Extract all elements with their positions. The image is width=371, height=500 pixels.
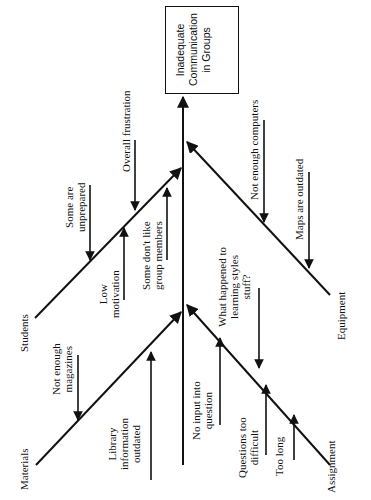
cause-text: magazines [62,343,74,395]
cause-text: motivation [109,270,121,318]
cause-low-motivation: Low motivation [97,270,121,318]
cause-text: Library [106,418,118,470]
effect-line-3: in Groups [200,14,213,86]
cause-maps-outdated: Maps are outdated [293,159,305,240]
cause-text: Not enough computers [248,100,260,200]
cause-text: Overall frustration [120,90,132,172]
cause-too-long: Too long [273,437,285,476]
cause-text: Too long [273,437,285,476]
cause-text: difficult [248,417,260,478]
cause-text: Maps are outdated [293,159,305,240]
effect-line-1: Inadequate [174,14,187,86]
category-materials: Materials [18,448,30,490]
category-students: Students [18,314,30,352]
cause-questions-difficult: Questions too difficult [236,417,260,478]
cause-library-outdated: Library information outdated [106,418,142,470]
cause-overall-frustration: Overall frustration [120,90,132,172]
cause-text: Some don't like [140,221,152,290]
effect-line-2: Communication [187,14,200,86]
cause-dont-like-members: Some don't like group members [140,221,164,290]
cause-not-enough-magazines: Not enough magazines [50,343,74,395]
cause-not-enough-computers: Not enough computers [248,100,260,200]
cause-learning-styles: What happened to learning styles stuff? [216,247,252,327]
cause-no-input: No input into question [190,381,214,440]
category-assignment: Assignment [325,440,337,493]
cause-text: Some are [63,183,75,232]
category-label: Assignment [325,440,337,493]
cause-text: outdated [130,418,142,470]
cause-text: Not enough [50,343,62,395]
cause-some-unprepared: Some are unprepared [63,183,87,232]
category-label: Materials [18,448,30,490]
cause-text: Questions too [236,417,248,478]
cause-text: group members [152,221,164,290]
category-equipment: Equipment [335,292,347,340]
category-label: Students [18,314,30,352]
cause-text: information [118,418,130,470]
cause-text: What happened to [216,247,228,327]
cause-text: No input into [190,381,202,440]
cause-text: stuff? [240,247,252,327]
cause-text: learning styles [228,247,240,327]
cause-text: unprepared [75,183,87,232]
cause-text: Low [97,270,109,318]
category-label: Equipment [335,292,347,340]
effect-label: Inadequate Communication in Groups [174,14,213,86]
cause-text: question [202,381,214,440]
